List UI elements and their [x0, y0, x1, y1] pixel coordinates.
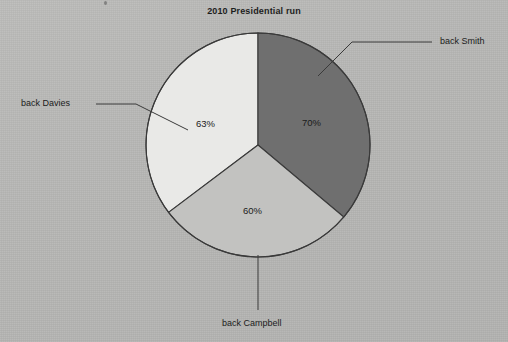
callout-label-back-smith: back Smith [440, 36, 485, 46]
slice-value-back-smith: 70% [302, 117, 321, 128]
slice-value-back-davies: 63% [196, 118, 215, 129]
callout-label-back-campbell: back Campbell [222, 318, 282, 328]
chart-canvas: 2010 Presidential run 63% 70% 60% back S… [0, 0, 508, 342]
pie-chart-graphic [0, 0, 508, 342]
slice-value-back-campbell: 60% [243, 205, 262, 216]
callout-label-back-davies: back Davies [21, 98, 70, 108]
